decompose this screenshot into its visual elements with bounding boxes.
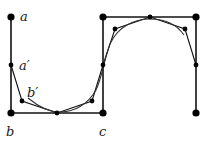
point-a: [7, 13, 14, 20]
label-a: a: [20, 9, 28, 24]
label-c: c: [99, 124, 107, 139]
point-bottom-mid: [55, 111, 60, 116]
smooth-curve: [28, 19, 184, 112]
point-mid-right: [194, 63, 199, 68]
label-b-prime: b′: [27, 85, 38, 100]
point-mid-left: [101, 63, 106, 68]
point-bottom-right: [192, 109, 199, 116]
point-top-left-inner: [113, 27, 118, 32]
point-top-mid: [148, 15, 153, 20]
label-a-prime: a′: [19, 58, 30, 73]
subdivision-diagram: a a′ b′ b c: [0, 0, 206, 142]
label-b: b: [6, 124, 14, 139]
point-top-right-inner: [183, 27, 188, 32]
point-c: [99, 109, 106, 116]
point-b-prime: [20, 99, 25, 104]
point-a-prime: [9, 63, 14, 68]
point-bottom-right-inner: [90, 99, 95, 104]
point-b: [7, 109, 14, 116]
point-top-left: [99, 13, 106, 20]
point-top-right: [192, 13, 199, 20]
